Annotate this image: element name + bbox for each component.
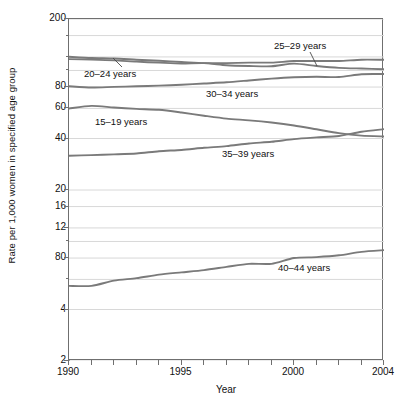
series-label-25-29-years: 25–29 years [274, 40, 326, 51]
series-label-40-44-years: 40–44 years [278, 262, 330, 273]
y-axis-tick-label: 20 [26, 184, 66, 194]
x-axis-tick-mark [158, 360, 159, 365]
x-axis-tick-mark [338, 360, 339, 365]
x-axis-tick-labels: 1990199520002004 [0, 366, 404, 380]
series-label-30-34-years: 30–34 years [206, 88, 258, 99]
y-axis-tick-label: 12 [26, 222, 66, 232]
x-axis-tick-mark [248, 360, 249, 365]
y-axis-tick-label: 40 [26, 133, 66, 143]
y-axis-title: Rate per 1,000 women in specified age gr… [0, 0, 22, 330]
y-axis-tick-label: 2 [26, 355, 66, 365]
y-axis-tick-labels: 2008060402016128042 [22, 0, 66, 412]
x-axis-tick-mark [136, 360, 137, 365]
x-axis-tick-mark [383, 360, 384, 365]
y-axis-tick-label: 60 [26, 102, 66, 112]
series-label-20-24-years: 20–24 years [84, 68, 136, 79]
x-axis-tick-mark [226, 360, 227, 365]
series-label-35-39-years: 35–39 years [222, 148, 274, 159]
x-axis-tick-mark [203, 360, 204, 365]
x-axis-title: Year [68, 384, 384, 395]
x-axis-tick-mark [181, 360, 182, 365]
x-axis-tick-mark [293, 360, 294, 365]
x-axis-tick-mark [68, 360, 69, 365]
chart-figure: Rate per 1,000 women in specified age gr… [0, 0, 404, 412]
x-axis-tick-mark [361, 360, 362, 365]
y-axis-title-text: Rate per 1,000 women in specified age gr… [6, 67, 17, 263]
y-axis-tick-label: 200 [26, 13, 66, 23]
x-axis-tick-mark [316, 360, 317, 365]
x-axis-tick-mark [113, 360, 114, 365]
y-axis-tick-label: 4 [26, 304, 66, 314]
x-axis-tick-mark [271, 360, 272, 365]
x-axis-tick-label: 1990 [57, 366, 79, 378]
x-axis-tick-label: 2000 [282, 366, 304, 378]
series-label-15-19-years: 15–19 years [95, 116, 147, 127]
y-axis-tick-label: 80 [26, 252, 66, 262]
series-line-40-44-years [69, 250, 384, 286]
y-axis-tick-label: 16 [26, 201, 66, 211]
y-axis-tick-label: 80 [26, 81, 66, 91]
x-axis-tick-mark [91, 360, 92, 365]
x-axis-tick-label: 2004 [372, 366, 394, 378]
x-axis-tick-label: 1995 [169, 366, 191, 378]
